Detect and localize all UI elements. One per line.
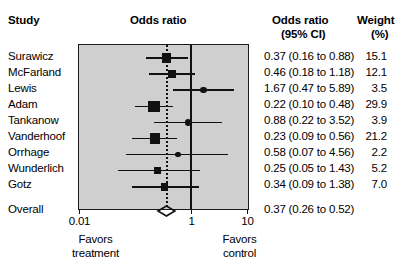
- column-header-study: Study: [8, 14, 39, 26]
- column-header-weight: Weight: [357, 14, 395, 26]
- study-label: Gotz: [8, 178, 32, 190]
- x-axis-tick: [79, 210, 80, 214]
- x-axis-tick-label: 1: [188, 215, 194, 227]
- x-axis-tick-label: 10: [241, 215, 253, 227]
- study-label: Lewis: [8, 82, 37, 94]
- weight-value: 29.9: [353, 98, 387, 110]
- odds-ratio-value: 0.34 (0.09 to 1.38): [264, 178, 354, 190]
- overall-label: Overall: [8, 203, 43, 215]
- x-axis-tick: [247, 210, 248, 214]
- overall-odds-ratio-value: 0.37 (0.26 to 0.52): [264, 203, 354, 215]
- point-estimate-marker: [154, 167, 161, 174]
- forest-plot-figure: Study Odds ratio Odds ratio (95% CI) Wei…: [0, 0, 404, 270]
- odds-ratio-value: 0.25 (0.05 to 1.43): [264, 162, 354, 174]
- study-label: Adam: [8, 98, 37, 110]
- point-estimate-marker: [168, 70, 177, 79]
- study-label: Orrhage: [8, 146, 49, 158]
- odds-ratio-value: 0.22 (0.10 to 0.48): [264, 98, 354, 110]
- weight-value: 3.9: [353, 114, 387, 126]
- point-estimate-marker: [161, 183, 168, 190]
- odds-ratio-value: 0.88 (0.22 to 3.52): [264, 114, 354, 126]
- odds-ratio-value: 0.37 (0.16 to 0.88): [264, 50, 354, 62]
- forest-plot-area: [78, 44, 249, 210]
- column-header-weight-units: (%): [371, 28, 389, 40]
- forest-plot-inner: [79, 45, 248, 209]
- weight-value: 15.1: [353, 50, 387, 62]
- favors-control-label-line2: control: [223, 247, 256, 259]
- study-label: Wunderlich: [8, 162, 64, 174]
- point-estimate-marker: [185, 119, 191, 125]
- overall-diamond: [155, 205, 178, 217]
- x-axis-tick-label: 0.01: [69, 215, 91, 227]
- column-header-odds-ratio: Odds ratio: [272, 14, 329, 26]
- x-axis-tick: [191, 210, 192, 214]
- study-label: McFarland: [8, 66, 61, 78]
- weight-value: 12.1: [353, 66, 387, 78]
- point-estimate-marker: [148, 101, 160, 113]
- column-header-odds-ratio-ci: (95% CI): [281, 28, 326, 40]
- study-label: Tankanow: [8, 114, 59, 126]
- point-estimate-marker: [162, 53, 171, 62]
- weight-value: 3.5: [353, 82, 387, 94]
- null-effect-line: [190, 45, 192, 209]
- odds-ratio-value: 0.58 (0.07 to 4.56): [264, 146, 354, 158]
- favors-control-label-line1: Favors: [223, 233, 257, 245]
- point-estimate-marker: [200, 87, 206, 93]
- study-label: Vanderhoof: [8, 130, 65, 142]
- plot-title: Odds ratio: [130, 14, 187, 26]
- weight-value: 2.2: [353, 146, 387, 158]
- odds-ratio-value: 1.67 (0.47 to 5.89): [264, 82, 354, 94]
- odds-ratio-value: 0.23 (0.09 to 0.56): [264, 130, 354, 142]
- favors-treatment-label-line2: treatment: [72, 247, 119, 259]
- point-estimate-marker: [150, 133, 160, 143]
- favors-treatment-label-line1: Favors: [79, 233, 113, 245]
- point-estimate-marker: [175, 152, 181, 158]
- study-label: Surawicz: [8, 50, 53, 62]
- weight-value: 5.2: [353, 162, 387, 174]
- weight-value: 21.2: [353, 130, 387, 142]
- weight-value: 7.0: [353, 178, 387, 190]
- odds-ratio-value: 0.46 (0.18 to 1.18): [264, 66, 354, 78]
